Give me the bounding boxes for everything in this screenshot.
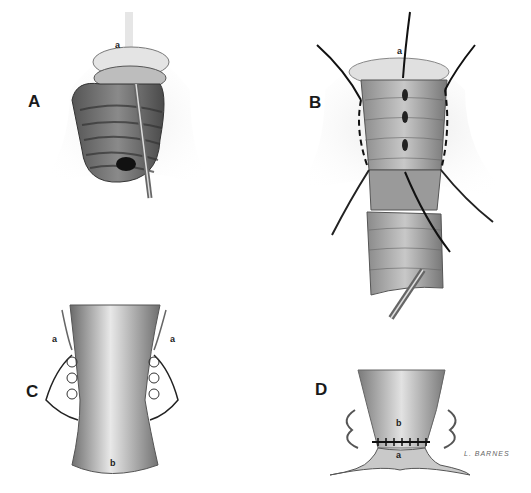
label-a: a <box>396 450 401 460</box>
label-b: b <box>110 458 116 468</box>
panel-letter-b: B <box>309 93 321 113</box>
label-a: a <box>397 46 402 56</box>
label-a: a <box>115 40 120 50</box>
panel-c-illustration <box>0 290 265 493</box>
panel-letter-a: A <box>28 92 40 112</box>
panel-d: D b a L. BARNES <box>300 330 531 493</box>
panel-a-illustration <box>0 0 265 250</box>
artist-signature: L. BARNES <box>464 450 510 457</box>
panel-a: A a <box>0 0 265 250</box>
label-a-right: a <box>170 334 175 344</box>
panel-letter-d: D <box>315 380 327 400</box>
panel-b: B a <box>265 0 531 320</box>
panel-d-illustration <box>300 330 531 493</box>
panel-c: C a a b <box>0 290 265 493</box>
label-a-left: a <box>52 334 57 344</box>
label-b: b <box>396 418 402 428</box>
panel-letter-c: C <box>26 382 38 402</box>
